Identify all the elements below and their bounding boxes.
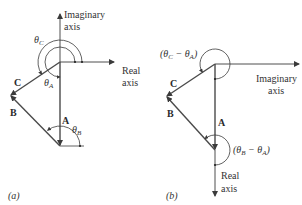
imaginary-axis-label-line1-a: Imaginary [64, 9, 105, 20]
theta-b-label-a: θB [72, 124, 82, 137]
vector-b-label-b: B [167, 108, 174, 119]
imaginary-axis-label-line2-a: axis [64, 21, 80, 32]
theta-b-minus-a-label-b: (θB − θA) [233, 144, 271, 157]
real-axis-label-line1-b: Real [221, 170, 240, 181]
theta-c-minus-a-arc-start-dot [214, 78, 216, 80]
theta-c-minus-a-label-b: (θC − θA) [160, 48, 198, 61]
vector-a-label-b: A [218, 117, 226, 128]
real-axis-label-line2-a: axis [122, 77, 138, 88]
theta-c-label-a: θC [34, 34, 44, 47]
imaginary-axis-label-line2-b: axis [268, 85, 284, 96]
phasor-diagram-figure: Imaginary axis Real axis C B A θC θA θB … [0, 0, 302, 205]
panel-a: Imaginary axis Real axis C B A θC θA θB … [8, 9, 141, 202]
imaginary-axis-label-line1-b: Imaginary [256, 73, 297, 84]
vector-b-arrow-a [11, 96, 60, 146]
real-axis-label-line2-b: axis [221, 183, 237, 194]
theta-b-minus-a-arc-start-dot [214, 164, 216, 166]
theta-a-arc-start-dot [74, 61, 76, 63]
vector-c-label-a: C [14, 77, 21, 88]
panel-b: Imaginary axis Real axis C B A (θC − θA)… [160, 48, 299, 202]
real-axis-label-line1-a: Real [122, 65, 141, 76]
vector-c-label-b: C [170, 78, 177, 89]
theta-a-label-a: θA [44, 77, 54, 90]
vector-b-label-a: B [10, 107, 17, 118]
theta-b-arc-start-dot [79, 145, 81, 147]
vector-b-arrow-b [167, 97, 215, 150]
panel-b-caption: (b) [166, 190, 178, 202]
figure-svg: Imaginary axis Real axis C B A θC θA θB … [0, 0, 302, 205]
theta-c-arc-start-dot [81, 61, 83, 63]
theta-b-minus-a-arc-b [205, 135, 230, 165]
panel-a-caption: (a) [8, 190, 20, 202]
vector-a-label-a: A [62, 115, 70, 126]
